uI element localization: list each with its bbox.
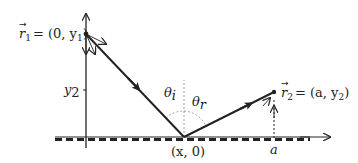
point-r2 <box>272 90 276 94</box>
r1-vec-arrow: → <box>19 19 27 29</box>
incident-angle-arc <box>166 111 184 118</box>
theta-r-label: θr <box>192 94 207 112</box>
y2-label: y2 <box>63 82 80 100</box>
incident-ray-arrow <box>128 78 138 89</box>
reflection-diagram: r1= (0, y1) → r2= (a, y2) → y2 a (x, 0) … <box>0 0 358 163</box>
reflection-point-label: (x, 0) <box>171 144 205 159</box>
reflected-ray-arrow <box>240 104 250 109</box>
theta-i-label: θi <box>164 85 176 103</box>
r2-variation-vectors <box>263 98 274 118</box>
mirror-surface <box>55 137 310 140</box>
diagram-canvas: r1= (0, y1) → r2= (a, y2) → y2 a (x, 0) … <box>0 0 358 163</box>
r1-label: r1= (0, y1) <box>19 26 88 43</box>
a-label: a <box>270 142 278 157</box>
r2-vec-arrow: → <box>281 78 289 88</box>
r2-label: r2= (a, y2) <box>281 85 349 102</box>
reflected-angle-arc <box>184 111 206 126</box>
